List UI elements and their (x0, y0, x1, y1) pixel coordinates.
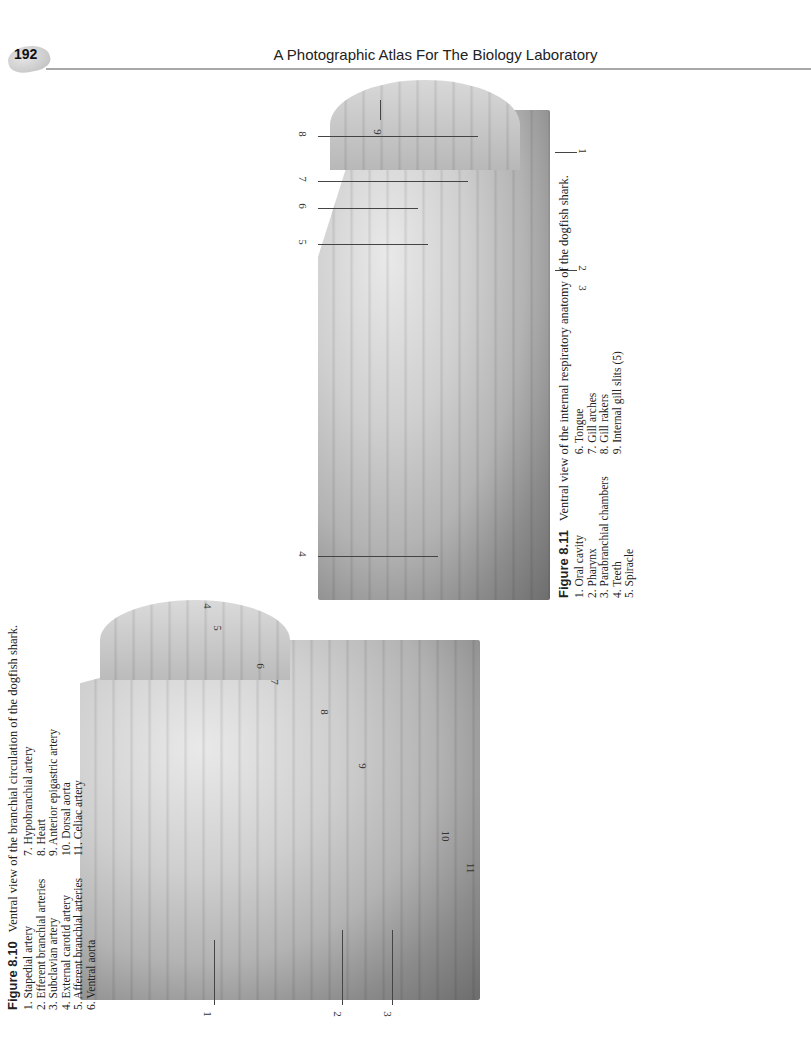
legend-item: 11. Celiac artery (72, 729, 85, 856)
callout-3: 3 (382, 1011, 394, 1017)
legend-item: 2. Efferent branchial arteries (35, 878, 48, 1010)
legend-item: 9. Internal gill slits (5) (611, 351, 624, 454)
callout-1: 1 (202, 1011, 214, 1017)
legend-item: 3. Subclavian artery (47, 878, 60, 1010)
callout-9: 9 (372, 129, 384, 135)
callout-8: 8 (297, 131, 309, 137)
legend-item: 8. Heart (35, 729, 48, 856)
callout-10: 10 (440, 831, 452, 842)
figure-8-11-caption: Figure 8.11 Ventral view of the internal… (557, 168, 636, 598)
legend-item: 8. Gill rakers (598, 351, 611, 454)
legend-item: 1. Oral cavity (573, 476, 586, 598)
legend-item: 1. Stapedial artery (22, 878, 35, 1010)
figure-8-11-photo (318, 110, 550, 600)
figure-8-11-legend-col2: 6. Tongue 7. Gill arches 8. Gill rakers … (573, 351, 636, 454)
legend-item: 2. Pharynx (586, 476, 599, 598)
figure-8-11-legend-col1: 1. Oral cavity 2. Pharynx 3. Parabranchi… (573, 476, 636, 598)
callout-6: 6 (297, 203, 309, 209)
legend-item: 4. Teeth (611, 476, 624, 598)
figure-8-10-caption: Figure 8.10 Ventral view of the branchia… (6, 570, 97, 1010)
legend-item: 6. Tongue (573, 351, 586, 454)
header-rule (46, 68, 811, 70)
callout-6: 6 (255, 663, 267, 669)
legend-item: 7. Hypobranchial artery (22, 729, 35, 856)
callout-4: 4 (297, 551, 309, 557)
figure-8-10-legend-col2: 7. Hypobranchial artery 8. Heart 9. Ante… (22, 729, 97, 856)
figure-8-10-title: Ventral view of the branchial circulatio… (6, 625, 20, 933)
figure-8-11-label: Figure 8.11 (556, 530, 571, 598)
legend-item: 9. Anterior epigastric artery (47, 729, 60, 856)
callout-8: 8 (319, 709, 331, 715)
figure-8-11-title: Ventral view of the internal respiratory… (557, 175, 571, 521)
callout-5: 5 (297, 239, 309, 245)
callout-11: 11 (465, 863, 477, 874)
figure-8-10-legend-col1: 1. Stapedial artery 2. Efferent branchia… (22, 878, 97, 1010)
callout-5: 5 (212, 625, 224, 631)
legend-item: 5. Afferent branchial arteries (72, 878, 85, 1010)
legend-item: 7. Gill arches (586, 351, 599, 454)
figure-8-10-label: Figure 8.10 (5, 941, 20, 1010)
callout-4: 4 (202, 603, 214, 609)
legend-item: 10. Dorsal aorta (60, 729, 73, 856)
callout-1: 1 (577, 148, 589, 154)
running-title: A Photographic Atlas For The Biology Lab… (0, 46, 811, 63)
figure-8-10-photo (80, 640, 480, 1000)
figure-8-11-snout (330, 80, 520, 170)
callout-9: 9 (357, 763, 369, 769)
legend-item: 3. Parabranchial chambers (598, 476, 611, 598)
callout-7: 7 (269, 679, 281, 685)
legend-item: 6. Ventral aorta (85, 878, 98, 1010)
callout-2: 2 (332, 1011, 344, 1017)
page-header: 192 A Photographic Atlas For The Biology… (0, 40, 811, 70)
legend-item: 5. Spiracle (623, 476, 636, 598)
callout-7: 7 (297, 176, 309, 182)
legend-item: 4. External carotid artery (60, 878, 73, 1010)
